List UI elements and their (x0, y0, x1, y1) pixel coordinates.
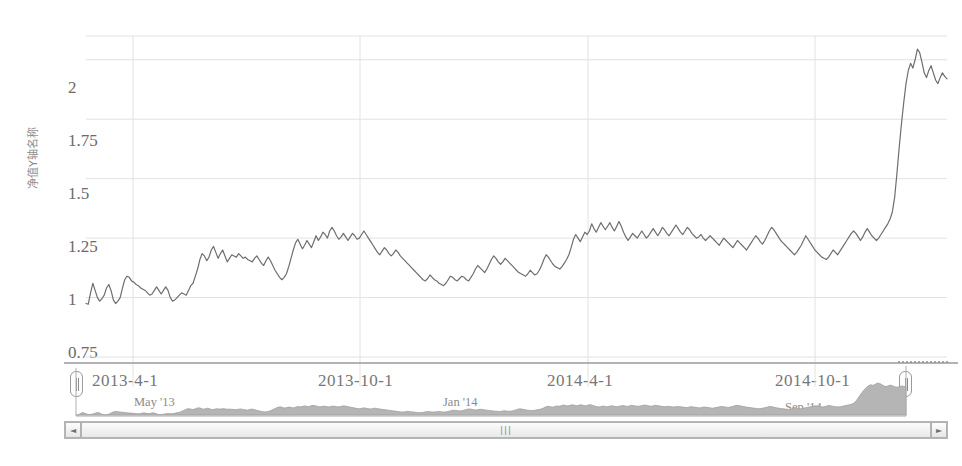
series-line-net-value (86, 49, 947, 304)
gridlines (64, 36, 958, 387)
navigator-area-series (76, 383, 906, 415)
stock-chart-widget: 净值Y轴名称 2 1.75 1.5 1.25 1 0.75 2013-4-1 2… (0, 0, 962, 466)
chart-canvas (0, 0, 962, 466)
